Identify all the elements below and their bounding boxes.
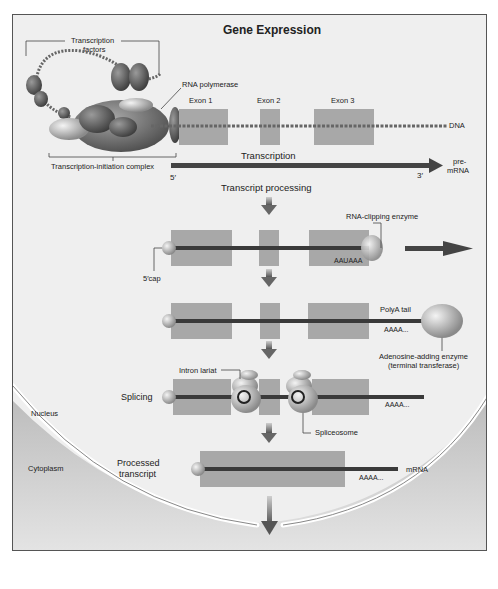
svg-text:AAAA...: AAAA... (359, 474, 384, 481)
svg-text:3′: 3′ (417, 171, 423, 180)
down-arrow (261, 197, 277, 215)
down-arrow (261, 269, 277, 287)
svg-text:Exon 3: Exon 3 (331, 96, 354, 105)
diagram-title: Gene Expression (223, 23, 321, 37)
nucleus-label: Nucleus (31, 409, 58, 418)
svg-text:5′cap: 5′cap (143, 274, 161, 283)
transcript-processing-label: Transcript processing (221, 182, 311, 193)
gene-exons: Exon 1 Exon 2 Exon 3 (179, 96, 374, 145)
svg-text:Exon 2: Exon 2 (257, 96, 280, 105)
translation-label: Translation into protein (221, 548, 317, 551)
spliceosome-2 (286, 370, 318, 413)
step-splicing: Splicing Intron lariat Spliceosome AAAA.… (121, 366, 424, 437)
dna-label: DNA (449, 121, 465, 130)
step-clipping: 5′cap AAUAAA RNA-clipping enzyme (143, 212, 473, 283)
svg-text:5′: 5′ (170, 173, 176, 182)
svg-text:mRNA: mRNA (447, 166, 469, 175)
svg-text:mRNA: mRNA (406, 465, 428, 474)
svg-text:RNA-clipping enzyme: RNA-clipping enzyme (346, 212, 418, 221)
svg-text:Spliceosome: Spliceosome (315, 428, 358, 437)
svg-text:PolyA tail: PolyA tail (380, 305, 411, 314)
svg-text:AAAA...: AAAA... (384, 326, 409, 333)
cytoplasm-label: Cytoplasm (28, 464, 63, 473)
svg-text:Processed: Processed (117, 458, 160, 468)
rna-polymerase-label: RNA polymerase (182, 80, 238, 89)
svg-text:Transcription: Transcription (71, 36, 114, 45)
down-arrow (261, 341, 277, 359)
step-processed-transcript: Processed transcript AAAA... mRNA (117, 451, 428, 487)
svg-text:transcript: transcript (119, 469, 157, 479)
svg-text:Intron lariat: Intron lariat (179, 366, 217, 375)
svg-text:Transcription-initiation compl: Transcription-initiation complex (51, 162, 154, 171)
svg-text:AAUAAA: AAUAAA (334, 257, 363, 264)
svg-text:Adenosine-adding enzyme: Adenosine-adding enzyme (379, 352, 468, 361)
premrna-arrow (171, 158, 443, 173)
svg-text:Exon 1: Exon 1 (189, 96, 212, 105)
svg-text:pre-: pre- (453, 157, 467, 166)
initiation-complex-bracket: Transcription-initiation complex (49, 153, 176, 171)
diagram-frame: Gene Expression Transcription factors RN… (12, 14, 487, 551)
down-arrow (261, 423, 277, 443)
svg-text:Splicing: Splicing (121, 392, 153, 402)
svg-text:AAAA...: AAAA... (385, 401, 410, 408)
spliceosome-1 (231, 370, 261, 413)
svg-text:(terminal transferase): (terminal transferase) (388, 361, 460, 370)
transcription-label: Transcription (241, 150, 296, 161)
step-polyadenylation: PolyA tail AAAA... Adenosine-adding enzy… (162, 303, 468, 370)
